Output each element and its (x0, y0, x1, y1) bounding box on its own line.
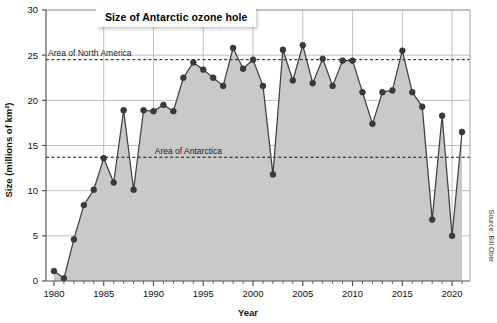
data-point (419, 104, 425, 110)
chart-title: Size of Antarctic ozone hole (105, 11, 247, 23)
data-point (141, 107, 147, 113)
data-point (399, 48, 405, 54)
data-point (91, 187, 97, 193)
data-point (330, 83, 336, 89)
data-point (81, 202, 87, 208)
source-attribution: Source: Bill Ober (488, 210, 495, 264)
y-axis-title: Size (millions of km²) (3, 102, 14, 197)
data-point (190, 59, 196, 65)
x-tick-label: 2000 (242, 288, 263, 299)
data-point (161, 102, 167, 108)
data-point (121, 107, 127, 113)
y-tick-label: 20 (27, 95, 38, 106)
data-point (290, 78, 296, 84)
x-tick-label: 1990 (143, 288, 164, 299)
data-point (270, 172, 276, 178)
data-point (360, 89, 366, 95)
x-tick-label: 2015 (392, 288, 413, 299)
data-point (459, 129, 465, 135)
data-point (340, 58, 346, 64)
data-point (151, 108, 157, 114)
y-tick-label: 0 (33, 275, 38, 286)
x-tick-label: 1980 (43, 288, 64, 299)
y-tick-label: 30 (27, 4, 38, 15)
data-point (180, 75, 186, 81)
data-point (250, 57, 256, 63)
data-point (429, 217, 435, 223)
data-point (240, 66, 246, 72)
data-point (111, 180, 117, 186)
data-point (101, 155, 107, 161)
x-axis-title: Year (238, 307, 258, 318)
x-tick-label: 2010 (342, 288, 363, 299)
reference-line-label-1: Area of Antarctica (155, 146, 222, 156)
data-point (210, 75, 216, 81)
data-point (389, 87, 395, 93)
data-point (439, 113, 445, 119)
x-tick-label: 2005 (292, 288, 313, 299)
data-point (230, 45, 236, 51)
data-point (51, 268, 57, 274)
data-point (370, 121, 376, 127)
ozone-hole-chart: 198019851990199520002005201020152020 051… (0, 0, 497, 323)
y-tick-label: 5 (33, 230, 38, 241)
x-tick-label: 2020 (442, 288, 463, 299)
data-point (131, 187, 137, 193)
data-point (170, 108, 176, 114)
data-point (320, 56, 326, 62)
data-point (409, 89, 415, 95)
x-tick-label: 1985 (93, 288, 114, 299)
data-point (200, 67, 206, 73)
chart-title-box: Size of Antarctic ozone hole (96, 8, 256, 27)
x-tick-labels: 198019851990199520002005201020152020 (43, 288, 462, 299)
data-point (310, 80, 316, 86)
data-point (260, 83, 266, 89)
data-point (449, 233, 455, 239)
y-tick-label: 25 (27, 50, 38, 61)
chart-canvas: 198019851990199520002005201020152020 051… (0, 0, 497, 323)
data-point (300, 42, 306, 48)
reference-line-label-0: Area of North America (48, 48, 132, 58)
data-point (280, 47, 286, 53)
data-point (380, 89, 386, 95)
data-point (71, 237, 77, 243)
data-point (350, 58, 356, 64)
data-point (61, 275, 67, 281)
y-tick-label: 10 (27, 185, 38, 196)
data-point (220, 83, 226, 89)
y-tick-label: 15 (27, 140, 38, 151)
x-tick-label: 1995 (193, 288, 214, 299)
